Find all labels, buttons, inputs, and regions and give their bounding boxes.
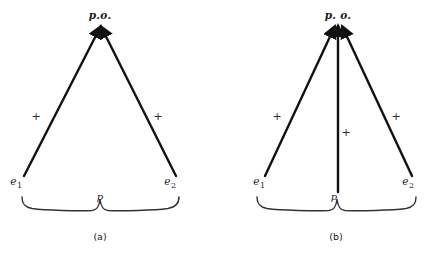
vector-e1-to-po-b bbox=[265, 35, 331, 177]
panel-caption-b: (b) bbox=[329, 232, 342, 242]
endpoint-label-e2-a-base: e bbox=[164, 175, 170, 187]
apex-label-po-a: p.o. bbox=[89, 10, 112, 21]
sign-label-plus-e2-b: + bbox=[391, 111, 400, 122]
endpoint-label-e1-a-subscript: 1 bbox=[17, 181, 22, 190]
endpoint-label-e1-b-subscript: 1 bbox=[260, 181, 265, 190]
figure-vector-layer bbox=[0, 0, 435, 262]
vector-e2-to-po-a bbox=[105, 35, 176, 177]
panel-caption-a: (a) bbox=[93, 232, 106, 242]
sign-label-plus-p-b: + bbox=[341, 127, 350, 138]
endpoint-label-e2-b-subscript: 2 bbox=[409, 181, 414, 190]
endpoint-label-e1-a-base: e bbox=[10, 175, 16, 187]
apex-label-po-b: p. o. bbox=[325, 10, 352, 21]
endpoint-label-e1-b-base: e bbox=[253, 175, 259, 187]
vector-e1-to-po-a bbox=[24, 35, 97, 177]
panel-a-arrows bbox=[24, 35, 176, 177]
brace-label-p-b: p bbox=[331, 192, 337, 202]
figure-canvas: p.o. e1 e2 + + p (a) p. o. e1 e2 + + + p… bbox=[0, 0, 435, 262]
panel-b-arrows bbox=[265, 35, 412, 193]
endpoint-label-e2-b-base: e bbox=[402, 175, 408, 187]
endpoint-label-e2-a-subscript: 2 bbox=[171, 181, 176, 190]
endpoint-label-e2-a: e2 bbox=[164, 176, 175, 187]
sign-label-plus-e1-b: + bbox=[272, 111, 281, 122]
vector-e2-to-po-b bbox=[346, 35, 412, 177]
sign-label-plus-e2-a: + bbox=[153, 111, 162, 122]
brace-label-p-a: p bbox=[97, 192, 103, 202]
endpoint-label-e1-b: e1 bbox=[253, 176, 264, 187]
endpoint-label-e2-b: e2 bbox=[402, 176, 413, 187]
endpoint-label-e1-a: e1 bbox=[10, 176, 21, 187]
sign-label-plus-e1-a: + bbox=[31, 111, 40, 122]
